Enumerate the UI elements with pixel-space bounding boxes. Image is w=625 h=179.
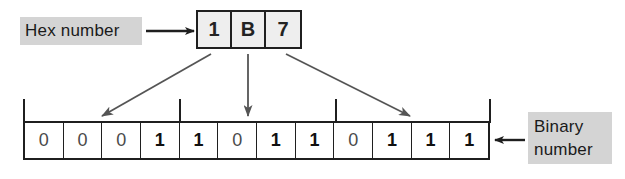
arrow-hex-1-to-nibble-1 [102, 54, 211, 116]
bit-cell-1: 0 [64, 123, 103, 158]
arrow-hex-7-to-nibble-3 [286, 54, 410, 116]
bit-cell-10: 1 [412, 123, 451, 158]
group-tick-start [23, 99, 25, 123]
group-tick-2 [335, 99, 337, 123]
hex-number-box: 1 B 7 [196, 10, 302, 49]
bit-cell-0: 0 [25, 123, 64, 158]
bit-cell-2: 0 [102, 123, 141, 158]
hex-to-binary-diagram: Hex number 1 B 7 0 0 0 1 1 0 1 1 0 1 1 1… [0, 0, 625, 179]
hex-cell-0: 1 [198, 12, 232, 47]
binary-label-line-2: number [534, 138, 593, 161]
group-tick-1 [179, 99, 181, 123]
hex-number-label: Hex number [20, 17, 142, 45]
bit-cell-9: 1 [373, 123, 412, 158]
bit-cell-7: 1 [296, 123, 335, 158]
binary-label-line-1: Binary [534, 115, 583, 138]
hex-cell-1: B [232, 12, 266, 47]
bit-cell-11: 1 [450, 123, 488, 158]
bit-cell-4: 1 [180, 123, 219, 158]
group-tick-end [489, 99, 491, 123]
binary-number-row: 0 0 0 1 1 0 1 1 0 1 1 1 [23, 121, 490, 160]
bit-cell-3: 1 [141, 123, 180, 158]
binary-number-label: Binary number [528, 112, 612, 164]
hex-cell-2: 7 [266, 12, 300, 47]
bit-cell-8: 0 [334, 123, 373, 158]
bit-cell-5: 0 [218, 123, 257, 158]
bit-cell-6: 1 [257, 123, 296, 158]
